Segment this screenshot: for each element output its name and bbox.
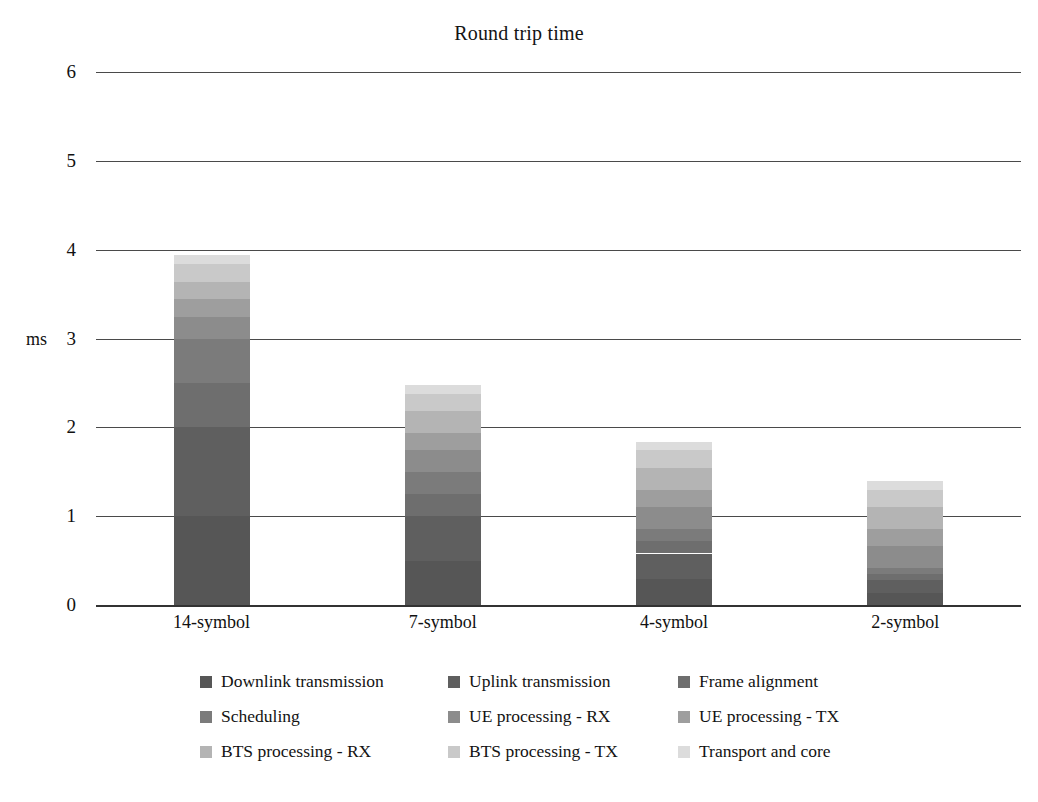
bar-segment [174,282,250,300]
bar-segment [405,494,481,516]
y-tick-label-2: 2 [36,416,76,438]
legend-item[interactable]: Downlink transmission [200,671,448,692]
legend-label: Downlink transmission [221,671,384,692]
bar-segment [174,383,250,427]
bar-segment [867,481,943,490]
bar-segment [174,317,250,338]
bar-segment [636,507,712,528]
legend-item[interactable]: Uplink transmission [448,671,678,692]
legend-row: SchedulingUE processing - RXUE processin… [200,699,900,734]
y-axis-labels: 0123456ms [0,72,96,605]
bar-segment [174,339,250,383]
bar-segment [636,579,712,605]
legend-swatch-icon [678,676,690,688]
legend-item[interactable]: Scheduling [200,706,448,727]
y-tick-label-4: 4 [36,239,76,261]
bar-segment [867,580,943,592]
legend-item[interactable]: UE processing - RX [448,706,678,727]
plot-area [96,72,1021,605]
bar-segment [867,507,943,528]
chart-title: Round trip time [0,22,1038,45]
legend-label: Scheduling [221,706,300,727]
bar-segment [636,450,712,468]
bar-segment [867,593,943,605]
bar-segment [405,433,481,451]
legend-swatch-icon [200,746,212,758]
bar-segment [405,385,481,394]
legend-swatch-icon [678,746,690,758]
legend-label: Frame alignment [699,671,818,692]
bar-segment [867,529,943,547]
legend-label: UE processing - TX [699,706,839,727]
gridline-0 [96,605,1021,607]
legend-swatch-icon [678,711,690,723]
gridline-6 [96,72,1021,73]
x-tick-label-2-symbol: 2-symbol [815,612,995,633]
x-axis-labels: 14-symbol7-symbol4-symbol2-symbol [96,612,1021,642]
bar-2-symbol [867,481,943,605]
chart-legend: Downlink transmissionUplink transmission… [200,664,900,769]
bar-segment [867,574,943,580]
y-axis-unit-label: ms [26,328,47,349]
x-tick-label-14-symbol: 14-symbol [122,612,302,633]
bar-4-symbol [636,442,712,605]
legend-label: Transport and core [699,741,831,762]
gridline-5 [96,161,1021,162]
legend-item[interactable]: Transport and core [678,741,900,762]
legend-swatch-icon [448,711,460,723]
bar-segment [867,568,943,574]
y-tick-label-1: 1 [36,505,76,527]
x-tick-label-7-symbol: 7-symbol [353,612,533,633]
bar-segment [174,255,250,264]
legend-item[interactable]: BTS processing - RX [200,741,448,762]
bar-segment [174,516,250,605]
bar-segment [867,490,943,508]
legend-row: Downlink transmissionUplink transmission… [200,664,900,699]
x-tick-label-4-symbol: 4-symbol [584,612,764,633]
bar-segment [636,490,712,508]
bar-segment [174,264,250,282]
legend-swatch-icon [448,746,460,758]
bar-segment [867,546,943,567]
bar-segment [174,427,250,516]
legend-item[interactable]: Frame alignment [678,671,900,692]
y-tick-label-5: 5 [36,150,76,172]
bar-7-symbol [405,385,481,605]
bar-segment [405,450,481,471]
y-tick-label-0: 0 [36,594,76,616]
y-tick-label-6: 6 [36,61,76,83]
bar-segment [405,561,481,605]
legend-label: Uplink transmission [469,671,610,692]
bar-segment [405,472,481,494]
legend-row: BTS processing - RXBTS processing - TXTr… [200,734,900,769]
bar-14-symbol [174,255,250,605]
bar-segment [636,541,712,553]
legend-label: UE processing - RX [469,706,610,727]
bar-segment [405,411,481,432]
legend-item[interactable]: BTS processing - TX [448,741,678,762]
gridline-4 [96,250,1021,251]
bar-segment [405,516,481,560]
chart-container: Round trip time 0123456ms 14-symbol7-sym… [0,0,1038,802]
bar-segment [636,529,712,541]
bar-segment [636,554,712,580]
legend-item[interactable]: UE processing - TX [678,706,900,727]
legend-label: BTS processing - TX [469,741,618,762]
bar-segment [636,442,712,451]
legend-swatch-icon [200,676,212,688]
bar-segment [405,394,481,412]
legend-swatch-icon [448,676,460,688]
legend-swatch-icon [200,711,212,723]
bar-segment [174,299,250,317]
legend-label: BTS processing - RX [221,741,371,762]
bar-segment [636,468,712,489]
